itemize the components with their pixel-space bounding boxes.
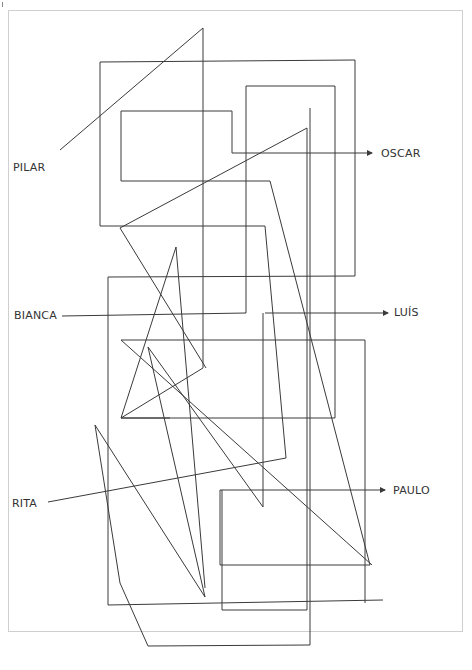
- line-path: [62, 86, 246, 316]
- end-label-oscar: OSCAR: [381, 147, 421, 160]
- line-path: [121, 340, 372, 565]
- line-path: [121, 340, 365, 603]
- line-path: [121, 28, 203, 418]
- start-label-bianca: BIANCA: [14, 309, 57, 322]
- start-label-rita: RITA: [12, 497, 37, 510]
- line-path: [121, 86, 335, 588]
- line-path: [148, 313, 263, 597]
- line-path: [120, 128, 307, 610]
- line-path: [120, 228, 206, 368]
- start-label-pilar: PILAR: [13, 161, 45, 174]
- tangled-lines-diagram: [0, 0, 472, 670]
- line-path: [60, 28, 203, 150]
- end-label-luis: LUÍS: [394, 306, 419, 319]
- line-path: [121, 111, 385, 565]
- line-path: [48, 62, 286, 502]
- end-label-paulo: PAULO: [393, 484, 430, 497]
- line-path: [95, 425, 205, 597]
- line-path: [100, 60, 383, 605]
